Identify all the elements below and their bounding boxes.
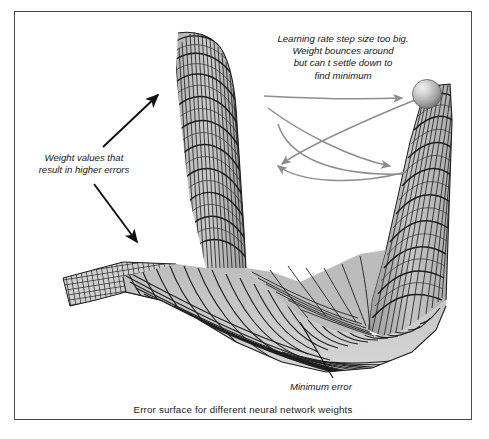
arrow-up-to-peak xyxy=(103,95,158,147)
error-surface-figure: Learning rate step size too big. Weight … xyxy=(0,0,489,439)
figure-caption: Error surface for different neural netwo… xyxy=(14,404,472,415)
annotation-minimum-error: Minimum error xyxy=(290,381,400,393)
error-surface-mesh xyxy=(51,32,456,376)
arrow-down-to-base xyxy=(94,184,137,242)
bounce-arrow-to-ball xyxy=(264,96,402,99)
surface-wall-right xyxy=(368,84,456,336)
surface-peak-left xyxy=(172,32,250,268)
bounce-arrows xyxy=(264,96,420,181)
annotation-learning-rate: Learning rate step size too big. Weight … xyxy=(243,33,443,82)
annotation-weight-values: Weight values that result in higher erro… xyxy=(16,152,152,176)
bounce-arrow-return-left xyxy=(278,166,406,181)
weight-position-ball xyxy=(413,80,442,109)
